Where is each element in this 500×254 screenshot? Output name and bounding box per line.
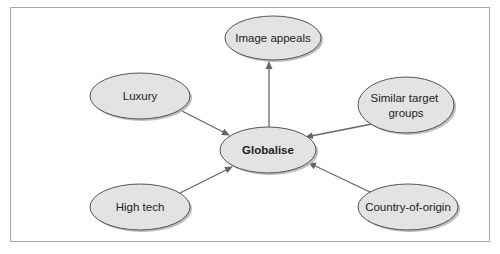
node-label-country-of-origin: Country-of-origin bbox=[365, 201, 451, 213]
node-label-line-1: Similar target bbox=[371, 92, 440, 104]
node-label-line-2: groups bbox=[388, 107, 423, 119]
node-label-high-tech: High tech bbox=[116, 201, 165, 213]
concept-diagram: Image appeals Luxury Similar target grou… bbox=[0, 0, 500, 254]
node-label-globalise: Globalise bbox=[242, 144, 294, 156]
node-label-image-appeals: Image appeals bbox=[235, 32, 311, 44]
node-label-luxury: Luxury bbox=[123, 90, 158, 102]
